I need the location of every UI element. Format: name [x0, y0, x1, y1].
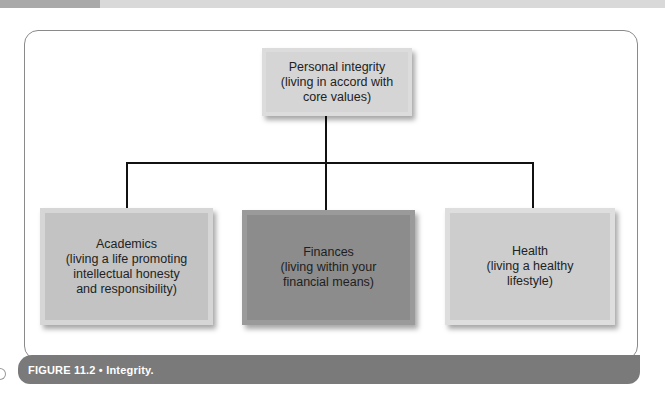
connector-academics [126, 162, 128, 209]
node-desc-line: (living a healthy [487, 259, 574, 274]
node-desc-line: (living within your [281, 260, 377, 275]
node-title: Personal integrity [289, 60, 386, 75]
connector-root-vertical [325, 116, 327, 163]
node-title: Academics [96, 237, 157, 252]
node-academics: Academics (living a life promoting intel… [40, 208, 213, 325]
margin-mark [0, 368, 6, 380]
node-personal-integrity: Personal integrity (living in accord wit… [262, 48, 412, 116]
node-finances: Finances (living within your financial m… [242, 210, 415, 325]
node-desc-line: lifestyle) [507, 274, 553, 289]
node-desc-line: and responsibility) [76, 282, 177, 297]
figure-caption-bar: FIGURE 11.2 • Integrity. [18, 355, 640, 384]
figure-caption: FIGURE 11.2 • Integrity. [28, 364, 154, 376]
connector-health [532, 162, 534, 209]
node-desc-line: intellectual honesty [73, 267, 179, 282]
node-desc-line: core values) [303, 90, 371, 105]
page-header-strip [0, 0, 665, 8]
node-title: Health [512, 244, 548, 259]
node-health: Health (living a healthy lifestyle) [445, 208, 615, 325]
node-desc-line: financial means) [283, 275, 374, 290]
node-desc-line: (living a life promoting [66, 252, 188, 267]
node-title: Finances [303, 245, 354, 260]
connector-horizontal [126, 162, 534, 164]
node-desc-line: (living in accord with [281, 75, 394, 90]
connector-finances [325, 162, 327, 211]
